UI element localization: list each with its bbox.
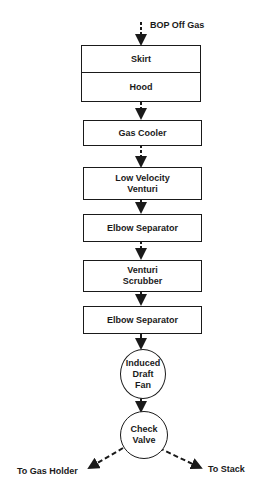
node-skirt: Skirt — [81, 45, 201, 74]
node-label: Hood — [130, 82, 153, 93]
node-label: Elbow Separator — [107, 223, 178, 234]
input-label: BOP Off Gas — [150, 20, 204, 31]
node-label: Elbow Separator — [107, 315, 178, 326]
node-check-valve: Check Valve — [120, 411, 168, 459]
output-label-stack: To Stack — [208, 464, 245, 475]
node-label: Skirt — [131, 54, 151, 65]
node-label: Low Velocity Venturi — [115, 173, 170, 195]
node-hood: Hood — [81, 72, 201, 102]
node-elbow-separator-2: Elbow Separator — [83, 306, 202, 334]
node-label: Gas Cooler — [118, 128, 166, 139]
node-induced-draft-fan: Induced Draft Fan — [120, 349, 166, 399]
node-label: Check Valve — [130, 424, 157, 446]
node-gas-cooler: Gas Cooler — [83, 120, 202, 146]
node-venturi-scrubber: Venturi Scrubber — [83, 260, 202, 292]
node-label: Venturi Scrubber — [123, 265, 163, 287]
node-label: Induced Draft Fan — [126, 358, 161, 391]
node-low-velocity-venturi: Low Velocity Venturi — [83, 167, 202, 200]
node-elbow-separator-1: Elbow Separator — [83, 214, 202, 242]
output-label-gas-holder: To Gas Holder — [17, 466, 78, 477]
